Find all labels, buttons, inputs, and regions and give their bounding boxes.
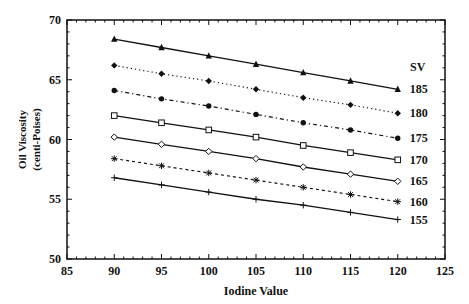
series-label: 160 — [410, 195, 428, 209]
y-axis-title: Oil Viscosity(centi-Poises) — [16, 108, 43, 171]
square-marker — [348, 150, 354, 156]
series-label: 180 — [410, 106, 428, 120]
triangle-marker — [111, 35, 117, 41]
open-diamond-marker — [253, 155, 259, 161]
circle-marker — [159, 96, 164, 101]
series-sv-165: 165 — [111, 134, 428, 188]
square-marker — [395, 157, 401, 163]
circle-marker — [206, 103, 211, 108]
square-marker — [159, 120, 165, 126]
diamond-marker — [158, 71, 164, 77]
open-diamond-marker — [158, 141, 164, 147]
series-sv-185: 185 — [111, 35, 428, 96]
open-diamond-marker — [395, 178, 401, 184]
square-marker — [111, 113, 117, 119]
open-diamond-marker — [347, 171, 353, 177]
y-axis-title-line: Oil Viscosity — [16, 110, 28, 169]
x-tick-label: 125 — [436, 264, 454, 278]
y-tick-label: 60 — [49, 133, 61, 147]
series-label: 165 — [410, 174, 428, 188]
x-tick-label: 90 — [108, 264, 120, 278]
diamond-marker — [395, 110, 401, 116]
y-tick-label: 50 — [49, 252, 61, 266]
x-tick-label: 85 — [61, 264, 73, 278]
series-sv-170: 170 — [111, 113, 427, 167]
x-tick-label: 120 — [389, 264, 407, 278]
circle-marker — [112, 88, 117, 93]
diamond-marker — [347, 102, 353, 108]
plot-series: 185180175170165160155 — [111, 35, 428, 226]
x-tick-label: 115 — [342, 264, 359, 278]
x-tick-label: 105 — [247, 264, 265, 278]
diamond-marker — [206, 78, 212, 84]
x-tick-label: 110 — [295, 264, 312, 278]
viscosity-chart: 185180175170165160155 859095100105110115… — [0, 0, 469, 304]
diamond-marker — [300, 94, 306, 100]
y-axis-title-line: (centi-Poises) — [30, 108, 43, 171]
open-diamond-marker — [111, 134, 117, 140]
x-tick-label: 95 — [156, 264, 168, 278]
circle-marker — [301, 120, 306, 125]
square-marker — [253, 134, 259, 140]
circle-marker — [395, 136, 400, 141]
open-diamond-marker — [300, 164, 306, 170]
y-tick-label: 65 — [49, 73, 61, 87]
series-label: 170 — [410, 153, 428, 167]
series-sv-180: 180 — [111, 62, 428, 120]
open-diamond-marker — [206, 148, 212, 154]
x-tick-label: 100 — [200, 264, 218, 278]
x-axis-title: Iodine Value — [224, 284, 289, 298]
y-tick-label: 70 — [49, 13, 61, 27]
series-label: 175 — [410, 131, 428, 145]
series-sv-175: 175 — [112, 88, 428, 145]
square-marker — [300, 143, 306, 149]
circle-marker — [253, 112, 258, 117]
square-marker — [206, 127, 212, 133]
diamond-marker — [111, 62, 117, 68]
legend-title: SV — [410, 60, 426, 74]
series-label: 185 — [410, 82, 428, 96]
diamond-marker — [253, 86, 259, 92]
y-tick-label: 55 — [49, 192, 61, 206]
series-label: 155 — [410, 213, 428, 227]
circle-marker — [348, 127, 353, 132]
